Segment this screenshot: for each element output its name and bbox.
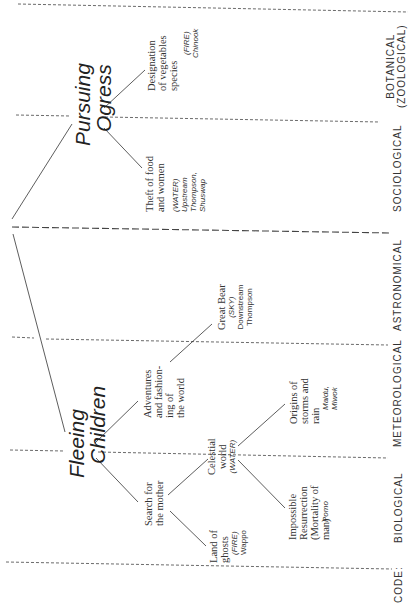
element-code: (FIRE) [230,530,239,563]
code-label-biological: BIOLOGICAL [393,472,404,543]
title-line: Children [87,386,108,478]
element-code: (WATER) [228,438,237,475]
node-great-bear: Great Bear (SKY) Downstream Thompson [216,284,254,330]
node-origins-of-storms: Origins of storms and rain Maidu, Miwok [288,378,339,424]
tribe-name: Thompson [245,284,254,330]
separator-meteorological-biological [10,450,64,451]
separator-sociological-astronomical [12,227,392,233]
node-text: Land of [208,530,219,563]
node-land-of-ghosts: Land of ghosts (FIRE) Wappo [208,530,248,563]
code-header-label: CODE: [393,566,404,603]
tribe-name: Upstream [180,156,189,212]
code-label-astronomical: ASTRONOMICAL [392,239,403,331]
node-text: and women [155,156,166,212]
diagram-lines [0,0,412,607]
tribe-name: Downstream [236,284,245,330]
tribe-name: Shuswap [198,156,207,212]
code-text: ASTRONOMICAL [392,239,403,331]
code-label-botanical: BOTANICAL (ZOOLOGICAL) [385,24,407,108]
tribe-name: Wappo [239,530,248,563]
node-text: Designation [146,29,157,91]
separator-astronomical-meteorological [12,337,34,338]
node-text: ing of [164,366,175,418]
element-code: (WATER) [171,156,180,212]
node-text: the world [175,366,186,418]
node-text: species [168,29,179,91]
edge-adventures-greatbear [170,324,212,362]
node-text: Impossible [287,485,298,540]
tribe-name: Miwok [330,378,339,424]
branch-title-pursuing-ogress: Pursuing Ogress [72,63,114,146]
node-text: of vegetables [157,29,168,91]
myth-code-diagram: Pursuing Ogress Fleeing Children Designa… [0,0,412,607]
code-text: METEOROLOGICAL [392,339,403,447]
code-label-meteorological: METEOROLOGICAL [392,339,403,447]
tribe-name: Chinook [191,29,200,91]
node-text: Theft of food [144,156,155,212]
node-text: Search for [143,481,154,526]
code-text: SOCIOLOGICAL [392,124,403,212]
node-text: the mother [154,481,165,526]
node-text: Great Bear [216,284,227,330]
element-code: (FIRE) [182,29,191,91]
node-text: world [217,438,228,475]
node-text: and fashion- [153,366,164,418]
edge-celestial-impossible [238,460,285,508]
element-code: (SKY) [227,284,236,330]
node-text: (Mortality of [309,485,320,540]
separator-top [18,4,408,12]
edge-root-fleeing [13,234,65,432]
edge-search-landofghosts [170,511,206,546]
title-line: Pursuing [72,63,93,146]
node-text: Origins of [288,378,299,424]
code-text: BIOLOGICAL [393,472,404,543]
code-text: (ZOOLOGICAL) [396,24,407,108]
separator-biological-code [6,562,392,569]
node-theft-of-food: Theft of food and women (WATER) Upstream… [144,156,207,212]
node-text: ghosts [219,530,230,563]
separator-botanical-sociological [16,115,70,116]
node-designation-of-vegetables: Designation of vegetables species (FIRE)… [146,29,200,91]
node-text: Celestial [206,438,217,475]
node-text: rain [310,378,321,424]
node-search-for-mother: Search for the mother [143,481,165,526]
node-text: Resurrection [298,485,309,540]
title-line: Ogress [93,63,114,146]
edge-search-celestial [168,459,208,495]
title-line: Fleeing [66,386,87,478]
tribe-name: Thompson, [189,156,198,212]
code-text: CODE: [393,566,404,603]
code-label-sociological: SOCIOLOGICAL [392,124,403,212]
edge-root-pursuing [12,124,72,219]
tribe-name: Maidu, [321,378,330,424]
node-impossible-resurrection: Impossible Resurrection (Mortality of ma… [287,485,330,540]
node-celestial-world: Celestial world (WATER) [206,438,237,475]
code-text: BOTANICAL [385,24,396,108]
edge-celestial-origins [238,404,285,446]
node-text: storms and [299,378,310,424]
node-adventures: Adventures and fashion- ing of the world [142,366,186,418]
node-text: Adventures [142,366,153,418]
branch-title-fleeing-children: Fleeing Children [66,386,108,478]
